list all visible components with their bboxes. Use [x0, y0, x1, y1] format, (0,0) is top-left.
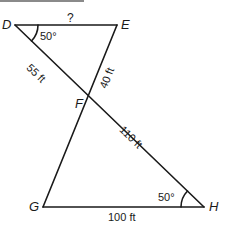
triangle-diagram: D E F G H ? 55 ft 40 ft 110 ft 100 ft 50… [0, 0, 235, 236]
angle-label-D: 50° [40, 31, 57, 42]
vertex-label-D: D [2, 18, 11, 31]
angle-arc-H [181, 191, 188, 207]
vertex-label-G: G [29, 200, 39, 213]
label-GH-length: 100 ft [108, 212, 136, 223]
vertex-label-F: F [75, 97, 83, 110]
vertex-label-E: E [121, 18, 130, 31]
angle-label-H: 50° [158, 192, 175, 203]
segment-EG [43, 25, 117, 207]
vertex-label-H: H [209, 200, 218, 213]
angle-arc-D [32, 25, 39, 41]
segment-DH [15, 25, 204, 207]
label-DE-unknown: ? [67, 12, 74, 24]
